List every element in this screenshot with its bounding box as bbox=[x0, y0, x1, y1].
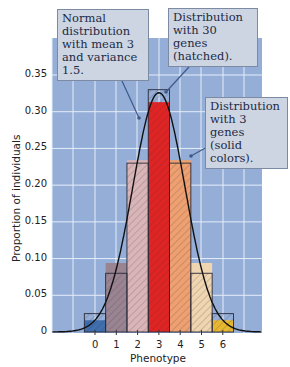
x-tick-label: 2 bbox=[135, 339, 141, 350]
x-tick-label: 3 bbox=[156, 339, 162, 350]
y-tick-label: 0.30 bbox=[25, 105, 47, 116]
x-tick-label: 6 bbox=[220, 339, 226, 350]
bar-30-genes bbox=[191, 273, 212, 332]
bar-30-genes bbox=[106, 273, 127, 332]
callout-line: (hatched). bbox=[173, 50, 253, 63]
bar-30-genes bbox=[148, 90, 169, 332]
y-tick-label: 0.05 bbox=[25, 288, 47, 299]
bar-30-genes bbox=[170, 163, 191, 332]
leader-normal-dot bbox=[137, 116, 141, 120]
x-tick-label: 1 bbox=[113, 339, 119, 350]
y-tick-label: 0.15 bbox=[25, 215, 47, 226]
leader-30genes-dot bbox=[164, 90, 168, 94]
bar-30-genes bbox=[127, 163, 148, 332]
callout-3-genes: Distribution with 3 genes (solid colors)… bbox=[205, 97, 288, 169]
callout-line: with 3 genes bbox=[210, 113, 283, 139]
y-axis-label: Proportion of individuals bbox=[10, 135, 22, 262]
y-tick-label: 0.35 bbox=[25, 68, 47, 79]
callout-line: (solid colors). bbox=[210, 139, 283, 165]
callout-line: and variance 1.5. bbox=[62, 51, 144, 77]
y-tick-label: 0.10 bbox=[25, 252, 47, 263]
callout-30-genes: Distribution with 30 genes (hatched). bbox=[168, 8, 258, 67]
x-axis-label: Phenotype bbox=[130, 352, 186, 364]
y-tick-label: 0.25 bbox=[25, 141, 47, 152]
y-tick-label: 0.20 bbox=[25, 178, 47, 189]
callout-normal-distribution: Normal distribution with mean 3 and vari… bbox=[57, 9, 149, 81]
y-tick-label: 0 bbox=[41, 325, 47, 336]
bar-30-genes bbox=[84, 314, 105, 332]
x-tick-label: 0 bbox=[92, 339, 98, 350]
callout-line: with 30 genes bbox=[173, 24, 253, 50]
leader-3genes-dot bbox=[189, 154, 193, 158]
x-tick-label: 4 bbox=[177, 339, 183, 350]
x-tick-label: 5 bbox=[199, 339, 205, 350]
bar-30-genes bbox=[212, 314, 233, 332]
